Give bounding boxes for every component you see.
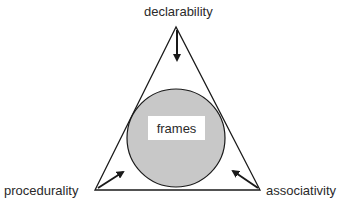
label-associativity: associativity — [266, 183, 336, 198]
arrow-left — [98, 172, 123, 188]
triangle-diagram — [0, 0, 344, 212]
frames-label: frames — [148, 116, 205, 140]
label-procedurality: procedurality — [4, 183, 78, 198]
label-declarability: declarability — [144, 4, 213, 19]
